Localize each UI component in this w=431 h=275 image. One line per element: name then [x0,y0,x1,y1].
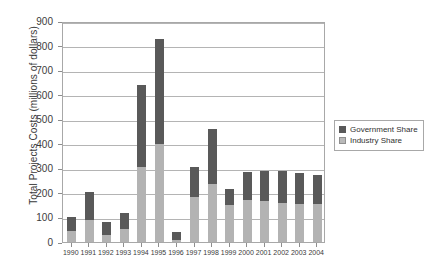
y-tick-label: 300 [1,164,53,174]
x-tick-label-1991: 1991 [81,249,97,257]
y-tick-label: 200 [1,189,53,199]
bar-2000 [243,172,252,242]
gridline [63,23,324,24]
x-tick-label-1993: 1993 [116,249,132,257]
x-tick-mark [194,243,195,247]
gridline [63,72,324,73]
bar-segment-government [225,189,234,205]
bar-segment-industry [120,229,129,243]
bar-segment-government [102,222,111,234]
y-tick-label: 500 [1,115,53,125]
bar-2002 [278,171,287,242]
bar-2001 [260,171,269,242]
bar-segment-industry [313,204,322,242]
x-tick-mark [176,243,177,247]
bar-segment-government [295,173,304,204]
bar-1999 [225,189,234,242]
y-tick-label: 600 [1,91,53,101]
x-tick-mark [158,243,159,247]
x-tick-mark [281,243,282,247]
bar-segment-industry [85,220,94,242]
bar-segment-government [243,172,252,200]
y-tick-label: 400 [1,140,53,150]
bar-segment-industry [208,184,217,242]
x-tick-mark [299,243,300,247]
bar-1990 [67,217,76,242]
bar-segment-government [137,85,146,167]
x-tick-label-1999: 1999 [221,249,237,257]
chart-legend: Government ShareIndustry Share [334,120,424,151]
x-tick-mark [88,243,89,247]
y-tick-label: 700 [1,66,53,76]
bar-1997 [190,167,199,242]
bar-segment-industry [137,167,146,242]
x-tick-mark [264,243,265,247]
bar-segment-industry [102,235,111,242]
x-tick-mark [123,243,124,247]
stacked-bar-chart: Total Projects Costs (millions of dollar… [0,0,431,275]
x-tick-label-2000: 2000 [238,249,254,257]
bar-segment-industry [67,231,76,242]
y-tick-label: 800 [1,42,53,52]
legend-swatch-icon [339,126,346,133]
bar-1998 [208,129,217,242]
x-tick-label-1992: 1992 [98,249,114,257]
y-tick-label: 900 [1,17,53,27]
x-tick-mark [229,243,230,247]
x-tick-label-2001: 2001 [256,249,272,257]
gridline [63,145,324,146]
x-tick-label-2003: 2003 [291,249,307,257]
bar-segment-industry [155,144,164,242]
legend-label: Government Share [350,125,418,134]
legend-label: Industry Share [350,136,402,145]
bar-segment-government [120,213,129,229]
bar-1994 [137,85,146,242]
bar-1992 [102,222,111,242]
y-tick-label: 100 [1,213,53,223]
bar-segment-government [190,167,199,196]
bar-segment-government [172,232,181,239]
bar-segment-industry [243,200,252,242]
legend-swatch-icon [339,137,346,144]
plot-area [62,22,325,243]
bar-segment-government [155,39,164,143]
x-tick-mark [141,243,142,247]
x-tick-label-1997: 1997 [186,249,202,257]
bar-segment-industry [225,205,234,242]
x-tick-mark [71,243,72,247]
bar-segment-government [313,175,322,204]
bar-segment-industry [190,197,199,242]
bar-segment-government [67,217,76,231]
bar-1991 [85,192,94,242]
gridline [63,47,324,48]
bar-2004 [313,174,322,242]
y-tick-label: 0 [1,238,53,248]
gridline [63,121,324,122]
gridline [63,96,324,97]
bar-segment-government [278,171,287,203]
x-tick-label-1998: 1998 [203,249,219,257]
legend-item-gov[interactable]: Government Share [339,124,418,135]
bar-segment-industry [172,240,181,242]
bar-1996 [172,232,181,242]
x-tick-label-1990: 1990 [63,249,79,257]
x-tick-mark [211,243,212,247]
x-tick-label-1994: 1994 [133,249,149,257]
bar-segment-government [208,129,217,184]
legend-item-ind[interactable]: Industry Share [339,135,418,146]
x-tick-mark [106,243,107,247]
x-tick-label-1996: 1996 [168,249,184,257]
bar-1995 [155,39,164,242]
x-tick-mark [246,243,247,247]
bar-segment-industry [295,204,304,242]
bar-1993 [120,213,129,242]
bar-segment-government [260,171,269,202]
bar-segment-industry [278,203,287,242]
bar-2003 [295,173,304,242]
x-tick-mark [316,243,317,247]
bar-segment-government [85,192,94,220]
bar-segment-industry [260,201,269,242]
x-tick-label-2004: 2004 [308,249,324,257]
x-tick-label-1995: 1995 [151,249,167,257]
x-tick-label-2002: 2002 [273,249,289,257]
